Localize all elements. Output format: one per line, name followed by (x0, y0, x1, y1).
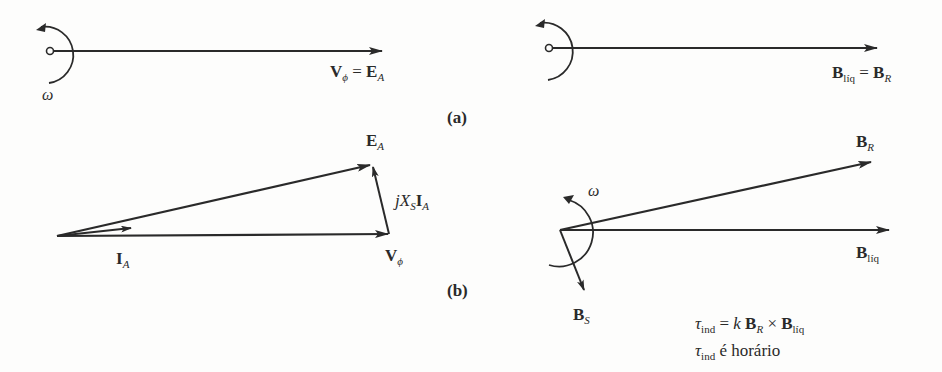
vphi-ea-label: Vϕ = EA (330, 63, 384, 80)
panel-a-tag: (a) (447, 109, 467, 126)
rotation-arc-icon (540, 23, 573, 80)
torque-equation: τind = k BR × Blíq (695, 315, 804, 332)
rotation-arrowhead-icon (535, 19, 545, 28)
bs-label: BS (573, 306, 590, 323)
ea-vector (57, 165, 370, 236)
rotation-arrowhead-icon (36, 23, 46, 32)
br-vector (560, 162, 871, 230)
panel-b-tag: (b) (447, 282, 468, 299)
rotation-arc-icon (41, 27, 73, 83)
ia-label: IA (116, 250, 129, 267)
omega-label-a: ω (42, 87, 53, 103)
jxsia-vector (373, 167, 389, 234)
pivot-icon (546, 45, 553, 52)
bnet-label: Blíq (856, 244, 879, 261)
ea-label: EA (366, 132, 384, 149)
vphi-label: Vϕ (385, 247, 403, 264)
rotation-arrowhead-icon (563, 195, 574, 204)
omega-label-b: ω (588, 183, 599, 199)
panel-a-right (535, 19, 877, 80)
br-label: BR (856, 133, 874, 150)
bnet-br-label: Blíq = BR (832, 64, 891, 81)
vphi-vector (57, 234, 388, 236)
jxsia-label: jXSIA (395, 192, 429, 209)
pivot-icon (47, 48, 54, 55)
torque-direction: τind é horário (695, 342, 780, 359)
panel-b-right (549, 162, 889, 290)
panel-b-left (57, 165, 389, 236)
